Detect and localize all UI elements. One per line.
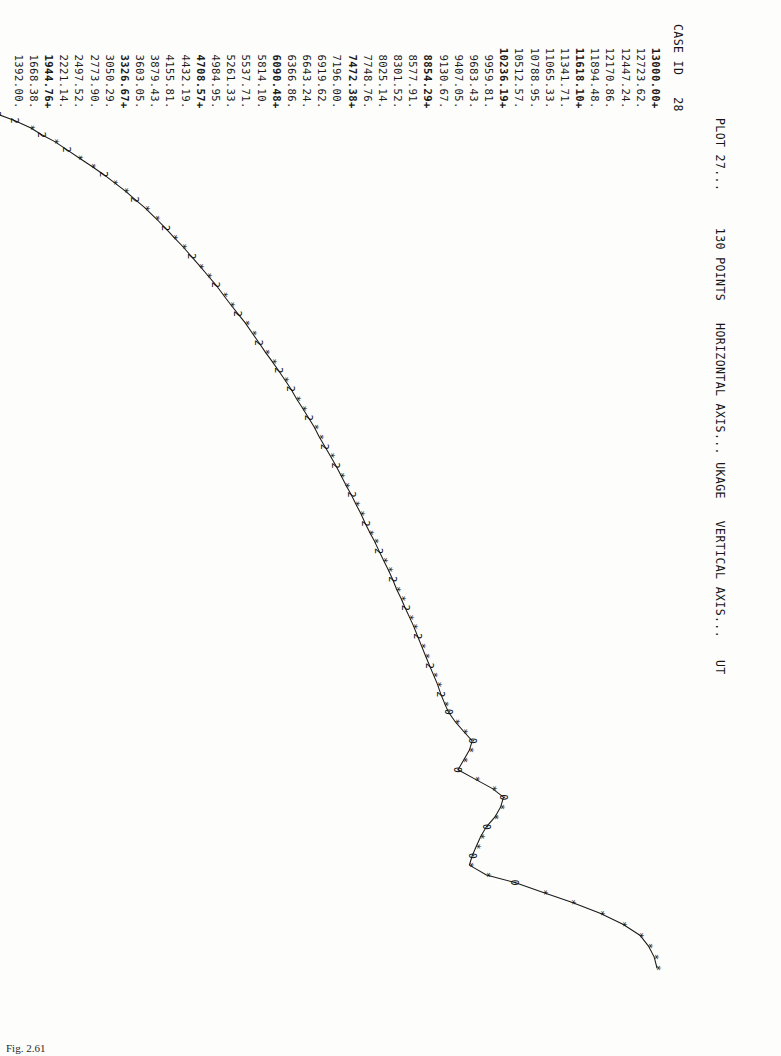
vertical-axis-tick-mark: . — [71, 102, 86, 112]
vertical-axis-tick-label: 11065.33 — [542, 24, 557, 102]
data-point-symbol: * — [450, 719, 461, 725]
vertical-axis-tick: 6366.86. — [284, 24, 299, 112]
vertical-axis-tick-label: 12447.24 — [617, 24, 632, 102]
vertical-axis-tick-mark: . — [11, 102, 26, 112]
data-point-symbol: 2 — [186, 253, 197, 259]
vertical-axis-tick-label: 8854.29 — [420, 24, 435, 102]
vertical-axis-tick-label: 10236.19 — [496, 24, 511, 102]
vertical-axis-tick: 6919.62. — [314, 24, 329, 112]
vertical-axis-tick-mark: . — [86, 102, 101, 112]
vertical-axis-tick-mark: . — [602, 102, 617, 112]
data-point-symbol: * — [108, 179, 119, 185]
data-point-symbol: 2 — [210, 282, 221, 288]
vertical-axis-tick-label: 9130.67 — [435, 24, 450, 102]
vertical-axis-tick: 12447.24. — [617, 24, 632, 112]
vertical-axis-tick-mark: . — [481, 102, 496, 112]
vertical-axis-tick-mark: + — [344, 102, 359, 112]
vertical-axis-tick: 10788.95. — [526, 24, 541, 112]
data-point-symbol: * — [408, 623, 419, 629]
data-point-symbol: 2 — [360, 520, 371, 526]
fitted-curve-line — [0, 114, 657, 968]
vertical-axis-tick-label: 9683.43 — [466, 24, 481, 102]
data-point-symbol: * — [464, 747, 475, 753]
data-point-symbol: * — [86, 163, 97, 169]
data-point-symbol: * — [566, 899, 577, 905]
data-point-symbol: * — [369, 538, 380, 544]
vertical-axis-tick: 11341.71. — [557, 24, 572, 112]
vertical-axis-tick-mark: . — [102, 102, 117, 112]
vertical-axis-tick-label: 3326.67 — [117, 24, 132, 102]
vertical-axis-tick-mark: . — [435, 102, 450, 112]
rotated-printout-stage: PLOT 27... 130 POINTS HORIZONTAL AXIS...… — [0, 0, 781, 1056]
data-point-symbol: * — [325, 453, 336, 459]
lineprinter-listing: PLOT 27... 130 POINTS HORIZONTAL AXIS...… — [0, 0, 781, 1056]
vertical-axis-tick-label: 11894.48 — [587, 24, 602, 102]
vertical-axis-tick-mark: + — [496, 102, 511, 112]
vertical-axis-tick-mark: . — [511, 102, 526, 112]
data-point-symbol: * — [420, 653, 431, 659]
vertical-axis-tick-label: 5261.33 — [223, 24, 238, 102]
data-point-symbol: * — [458, 757, 469, 763]
data-point-symbol: * — [475, 834, 486, 840]
vertical-axis-tick-label: 1944.76 — [41, 24, 56, 102]
data-point-symbol: 2 — [373, 548, 384, 554]
vertical-axis-tick-label: 5814.10 — [253, 24, 268, 102]
vertical-axis-tick: 7472.38+ — [344, 24, 359, 112]
data-point-symbol: 2 — [435, 691, 446, 697]
data-point-symbol: * — [25, 125, 36, 131]
vertical-axis-tick-label: 9407.05 — [451, 24, 466, 102]
data-point-symbol: * — [404, 615, 415, 621]
case-id-line: CASE ID 28 — [671, 24, 685, 112]
vertical-axis-tick-label: 3879.43 — [147, 24, 162, 102]
data-point-symbol: 2 — [346, 491, 357, 497]
vertical-axis-tick: 9959.81. — [481, 24, 496, 112]
data-point-symbol: 2 — [273, 367, 284, 373]
vertical-axis-tick-label: 11618.10 — [572, 24, 587, 102]
vertical-axis-tick: 1668.38. — [26, 24, 41, 112]
data-point-symbol: * — [391, 586, 402, 592]
vertical-axis-tick-mark: . — [390, 102, 405, 112]
data-point-symbol: * — [458, 728, 469, 734]
vertical-axis-tick-label: 2497.52 — [71, 24, 86, 102]
data-point-symbol: * — [291, 396, 302, 402]
data-point-symbol: * — [350, 501, 361, 507]
data-point-symbol: * — [335, 472, 346, 478]
vertical-axis-tick-mark: . — [466, 102, 481, 112]
vertical-axis-tick: 4984.95. — [208, 24, 223, 112]
data-point-symbol: 0 — [443, 709, 454, 715]
data-point-symbol: 2 — [61, 147, 72, 153]
data-point-symbol: * — [194, 263, 205, 269]
vertical-axis-tick-label: 2221.14 — [56, 24, 71, 102]
data-point-symbol: 2 — [303, 415, 314, 421]
vertical-axis-tick: 9683.43. — [466, 24, 481, 112]
vertical-axis-tick-mark: . — [526, 102, 541, 112]
data-point-symbol: * — [378, 557, 389, 563]
data-point-symbol: * — [73, 155, 84, 161]
vertical-axis-tick: 8025.14. — [375, 24, 390, 112]
vertical-axis-tick: 3050.29. — [102, 24, 117, 112]
vertical-axis-tick: 1944.76+ — [41, 24, 56, 112]
data-point-symbol: * — [383, 566, 394, 572]
vertical-axis-tick: 2773.90. — [86, 24, 101, 112]
vertical-axis-tick-column: 13000.00+12723.62.12447.24.12170.86.1189… — [11, 24, 663, 112]
data-point-symbol: * — [150, 215, 161, 221]
data-point-symbol: 0 — [498, 794, 509, 800]
vertical-axis-tick-mark: . — [208, 102, 223, 112]
vertical-axis-tick: 3326.67+ — [117, 24, 132, 112]
vertical-axis-tick-label: 12723.62 — [633, 24, 648, 102]
vertical-axis-tick-label: 9959.81 — [481, 24, 496, 102]
data-point-symbol: 0 — [509, 880, 520, 886]
vertical-axis-tick-mark: + — [193, 102, 208, 112]
vertical-axis-tick-label: 1392.00 — [11, 24, 26, 102]
vertical-axis-tick-label: 8025.14 — [375, 24, 390, 102]
vertical-axis-tick-label: 7472.38 — [344, 24, 359, 102]
data-point-symbol: * — [297, 405, 308, 411]
vertical-axis-tick: 8301.52. — [390, 24, 405, 112]
data-point-symbol: * — [428, 672, 439, 678]
plot-canvas: 22*2*2**2**2**2**2**2**2**2**2*2**2**2*2… — [0, 112, 663, 974]
vertical-axis-tick-mark: + — [572, 102, 587, 112]
vertical-axis-tick: 2221.14. — [56, 24, 71, 112]
vertical-axis-tick-mark: . — [177, 102, 192, 112]
vertical-axis-tick-mark: . — [557, 102, 572, 112]
vertical-axis-tick-mark: . — [314, 102, 329, 112]
